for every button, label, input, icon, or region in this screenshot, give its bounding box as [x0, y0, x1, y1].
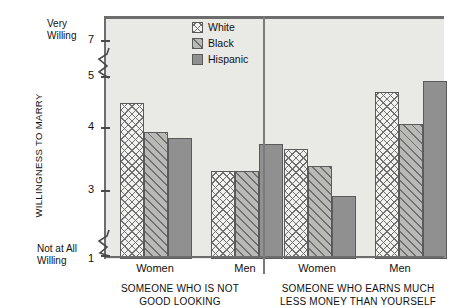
- bar-left-women-black: [144, 132, 168, 259]
- bar-left-women-hispanic: [168, 138, 192, 259]
- y-axis-title: WILLINGNESS TO MARRY: [33, 71, 44, 241]
- bar-right-men-black: [399, 124, 423, 259]
- y-tick-label-3: 3: [72, 183, 94, 195]
- bar-right-women-white: [284, 149, 308, 259]
- x-group-label-right-men: Men: [355, 262, 445, 274]
- axis-break-lower-icon: [96, 228, 110, 258]
- bar-right-men-hispanic: [423, 81, 447, 259]
- x-group-label-left-women: Women: [110, 262, 200, 274]
- panel-divider: [263, 16, 265, 274]
- bar-left-men-white: [211, 171, 235, 259]
- legend-item-hispanic: Hispanic: [192, 52, 258, 66]
- panel-caption-left-line2: GOOD LOOKING: [100, 296, 260, 308]
- y-tick-label-7: 7: [72, 33, 94, 45]
- panel-caption-right-line1: SOMEONE WHO EARNS MUCH: [266, 283, 450, 296]
- legend-label-black: Black: [208, 37, 234, 49]
- x-axis-baseline: [104, 256, 444, 258]
- bar-left-men-black: [235, 171, 259, 259]
- legend-swatch-white-icon: [192, 22, 203, 33]
- plot-inner: [106, 19, 444, 259]
- bar-right-women-hispanic: [332, 196, 356, 259]
- y-tick-mark-7: [101, 40, 110, 42]
- chart-canvas: WILLINGNESS TO MARRY Very Willing Not at…: [0, 0, 452, 308]
- legend-item-black: Black: [192, 36, 258, 50]
- legend: White Black Hispanic: [192, 20, 258, 68]
- y-tick-label-5: 5: [72, 69, 94, 81]
- panel-caption-left-line1: SOMEONE WHO IS NOT: [100, 283, 260, 296]
- plot-area: [104, 16, 444, 259]
- y-tick-label-4: 4: [72, 120, 94, 132]
- bar-right-women-black: [308, 166, 332, 259]
- bar-right-men-white: [375, 92, 399, 259]
- axis-break-upper-icon: [96, 46, 110, 80]
- y-axis-top-anchor-line1: Very: [47, 18, 76, 30]
- legend-label-hispanic: Hispanic: [208, 53, 248, 65]
- panel-caption-right: SOMEONE WHO EARNS MUCH LESS MONEY THAN Y…: [266, 283, 450, 308]
- x-group-label-right-women: Women: [272, 262, 362, 274]
- y-tick-mark-3: [101, 190, 110, 192]
- y-tick-label-1: 1: [72, 252, 94, 264]
- panel-caption-right-line2: LESS MONEY THAN YOURSELF: [266, 296, 450, 308]
- y-tick-mark-4: [101, 127, 110, 129]
- panel-caption-left: SOMEONE WHO IS NOT GOOD LOOKING: [100, 283, 260, 308]
- bar-left-women-white: [120, 103, 144, 259]
- legend-label-white: White: [208, 21, 235, 33]
- legend-swatch-black-icon: [192, 38, 203, 49]
- legend-swatch-hispanic-icon: [192, 54, 203, 65]
- legend-item-white: White: [192, 20, 258, 34]
